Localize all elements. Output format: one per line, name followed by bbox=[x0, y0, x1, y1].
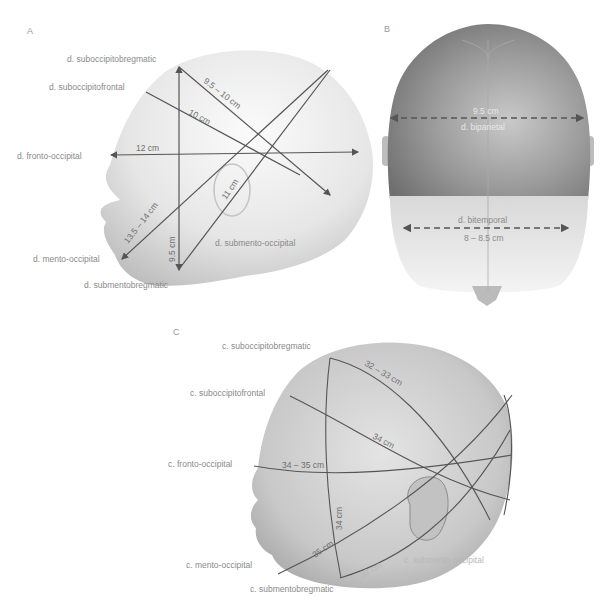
panel-a-letter: A bbox=[27, 26, 33, 36]
meas-b-biparietal: 9.5 cm bbox=[473, 106, 499, 116]
panel-b-neck bbox=[390, 196, 588, 293]
label-a-submento-occipital: d. submento-occipital bbox=[215, 238, 295, 248]
fetal-head-diameters-figure: A d. suboccipitobregmatic d. suboccipito… bbox=[0, 0, 609, 607]
label-c-suboccipitobregmatic: c. suboccipitobregmatic bbox=[222, 341, 312, 351]
label-c-fronto-occipital: c. fronto-occipital bbox=[168, 459, 232, 469]
panel-c: C c. suboccipitobregmatic c. suboccipito… bbox=[168, 327, 513, 594]
label-c-suboccipitofrontal: c. suboccipitofrontal bbox=[190, 388, 265, 398]
label-a-suboccipitofrontal: d. suboccipitofrontal bbox=[49, 82, 125, 92]
panel-a-head bbox=[101, 50, 373, 286]
meas-c-fronto-occipital: 34 – 35 cm bbox=[282, 460, 324, 470]
label-a-mento-occipital: d. mento-occipital bbox=[33, 254, 100, 264]
label-b-bitemporal: d. bitemporal bbox=[458, 215, 507, 225]
panel-a: A d. suboccipitobregmatic d. suboccipito… bbox=[17, 26, 373, 290]
meas-b-bitemporal: 8 – 8.5 cm bbox=[464, 233, 504, 243]
meas-a-submentobregmatic: 9.5 cm bbox=[167, 236, 177, 262]
meas-c-submentobregmatic: 34 cm bbox=[334, 507, 344, 530]
panel-b-letter: B bbox=[384, 24, 390, 34]
label-c-mento-occipital: c. mento-occipital bbox=[186, 560, 252, 570]
panel-b: B 9.5 cm d. biparietal d. bitemporal 8 –… bbox=[382, 24, 594, 306]
label-c-submentobregmatic: c. submentobregmatic bbox=[250, 584, 334, 594]
label-a-suboccipitobregmatic: d. suboccipitobregmatic bbox=[67, 54, 157, 64]
meas-a-fronto-occipital: 12 cm bbox=[136, 143, 159, 153]
panel-c-letter: C bbox=[173, 327, 180, 337]
label-a-submentobregmatic: d. submentobregmatic bbox=[84, 280, 169, 290]
panel-b-chin bbox=[472, 286, 502, 306]
label-b-biparietal: d. biparietal bbox=[461, 122, 505, 132]
label-a-fronto-occipital: d. fronto-occipital bbox=[17, 151, 82, 161]
label-c-submento-occipital: c. submento-occipital bbox=[404, 555, 484, 565]
